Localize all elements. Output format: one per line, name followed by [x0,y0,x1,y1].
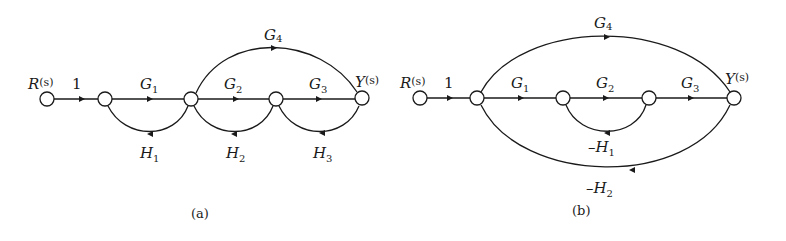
arrow-right-icon [518,95,524,101]
panel-b: R(s) 1 G1 G2 G3 G4 –H1 –H2 Y(s) (b) [399,14,749,218]
node-2-a [98,92,112,106]
output-label-b: Y(s) [725,70,749,88]
node-output-a [355,91,369,105]
arrow-right-icon [603,95,609,101]
input-label-a: R(s) [27,75,54,93]
arrow-right-icon [688,95,694,101]
arrow-right-icon [233,96,239,102]
output-label-a: Y(s) [355,73,379,91]
g3-label-a: G3 [309,75,327,95]
arrow-left-icon [629,167,635,173]
node-4-a [269,92,283,106]
input-gain-label-a: 1 [72,75,82,93]
g4-label-a: G4 [264,26,282,44]
g1-label-b: G1 [511,74,529,94]
g2-label-a: G2 [224,75,242,95]
neg-h1-label-b: –H1 [588,138,615,158]
node-4-b [642,91,656,105]
edge-h3-a [279,106,359,132]
arrow-right-icon [447,95,453,101]
signal-flow-diagrams: R(s) 1 G1 G2 G3 G4 H1 H2 H3 Y(s) (a) [0,0,786,241]
node-output-b [727,91,741,105]
arrow-right-icon [604,34,610,40]
arrow-right-icon [316,96,322,102]
edge-g4-a [196,47,357,93]
panel-a: R(s) 1 G1 G2 G3 G4 H1 H2 H3 Y(s) (a) [27,26,379,221]
input-label-b: R(s) [399,74,426,92]
caption-b: (b) [572,203,590,218]
h1-label-a: H1 [139,144,159,164]
node-3-a [184,92,198,106]
node-input-a [40,92,54,106]
neg-h2-label-b: –H2 [586,179,613,199]
g3-label-b: G3 [681,74,699,94]
edge-neg-h2-b [481,105,730,167]
arrow-right-icon [271,45,277,51]
edge-neg-h1-b [566,105,646,131]
g2-label-b: G2 [596,74,614,94]
caption-a: (a) [191,206,209,221]
edge-h1-a [108,106,188,132]
input-gain-label-b: 1 [444,74,454,92]
h3-label-a: H3 [312,144,332,164]
edge-h2-a [194,106,273,132]
node-3-b [556,91,570,105]
node-2-b [470,91,484,105]
arrow-right-icon [79,96,85,102]
g1-label-a: G1 [140,75,158,95]
node-input-b [413,91,427,105]
arrow-right-icon [147,96,153,102]
h2-label-a: H2 [225,144,245,164]
g4-label-b: G4 [594,14,612,32]
